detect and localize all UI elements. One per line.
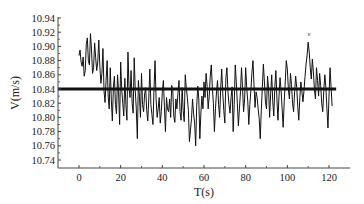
y-tick-label: 10.78 (31, 126, 55, 137)
x-tick-label: 80 (240, 172, 251, 183)
y-tick-label: 10.80 (31, 112, 55, 123)
y-tick-label: 10.94 (31, 13, 55, 24)
y-tick-label: 10.88 (31, 55, 55, 66)
y-axis: 10.7410.7610.7810.8010.8210.8410.8610.88… (31, 13, 61, 169)
y-tick-label: 10.84 (31, 84, 55, 95)
x-axis-title: T(s) (194, 185, 214, 199)
y-tick-label: 10.90 (31, 41, 55, 52)
peak-annotation: ε (308, 30, 311, 38)
x-tick-label: 100 (279, 172, 295, 183)
y-axis-title: V(m/s) (8, 76, 22, 110)
x-tick-label: 120 (321, 172, 337, 183)
x-tick-label: 40 (157, 172, 168, 183)
plot-area: ε (58, 30, 336, 146)
y-tick-label: 10.82 (31, 98, 55, 109)
y-tick-label: 10.74 (31, 155, 55, 166)
x-tick-label: 20 (115, 172, 126, 183)
x-tick-label: 0 (76, 172, 81, 183)
x-tick-label: 60 (199, 172, 210, 183)
y-tick-label: 10.92 (31, 27, 55, 38)
velocity-time-chart: ε 10.7410.7610.7810.8010.8210.8410.8610.… (0, 0, 364, 204)
y-tick-label: 10.76 (31, 140, 55, 151)
x-axis: 020406080100120 (58, 165, 350, 183)
y-tick-label: 10.86 (31, 69, 55, 80)
